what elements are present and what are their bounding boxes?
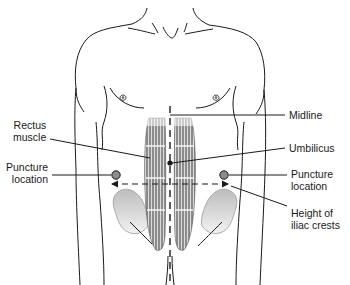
nipple-left	[120, 95, 126, 100]
iliac-bone-right	[201, 189, 236, 233]
label-puncture-left-line1: Puncture	[6, 161, 48, 173]
umbilicus-marker	[167, 160, 172, 165]
label-rectus-muscle-line2: muscle	[13, 131, 46, 143]
iliac-bone-left	[113, 189, 148, 233]
leader-lines	[50, 115, 287, 206]
label-umbilicus: Umbilicus	[289, 142, 335, 154]
label-iliac-crests-line1: Height of	[291, 207, 340, 219]
label-puncture-right-line2: location	[291, 180, 333, 192]
label-puncture-location-right: Puncture location	[291, 168, 333, 192]
puncture-marker-left	[112, 171, 120, 179]
label-iliac-crests: Height of iliac crests	[291, 207, 340, 231]
label-midline: Midline	[289, 109, 322, 121]
label-umbilicus-line1: Umbilicus	[289, 142, 335, 154]
label-rectus-muscle: Rectus muscle	[13, 119, 46, 143]
label-puncture-left-line2: location	[6, 173, 48, 185]
label-rectus-muscle-line1: Rectus	[13, 119, 46, 131]
label-iliac-crests-line2: iliac crests	[291, 219, 340, 231]
label-puncture-location-left: Puncture location	[6, 161, 48, 185]
neck-outline	[128, 8, 213, 38]
label-midline-line1: Midline	[289, 109, 322, 121]
nipple-right	[213, 95, 219, 100]
label-puncture-right-line1: Puncture	[291, 168, 333, 180]
puncture-marker-right	[220, 171, 228, 179]
